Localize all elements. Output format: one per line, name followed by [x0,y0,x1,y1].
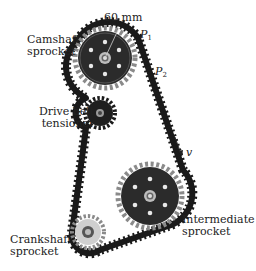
camshaft-sprocket-icon [75,28,135,88]
camshaft-label: Camshaft sprocket [27,34,80,58]
intermediate-label: Intermediate sprocket [182,214,255,238]
crankshaft-sprocket-icon [72,216,104,248]
timing-belt-diagram: Camshaft sprocket 60 mm P1 P2 Drive belt… [0,0,256,271]
velocity-label: v [186,147,192,159]
p2-subscript: 2 [162,71,166,79]
p1-subscript: 1 [147,34,151,42]
camshaft-label-line2: sprocket [27,46,80,58]
point-p1-label: P1 [140,29,152,44]
crankshaft-label: Crankshaft sprocket [10,234,72,258]
intermediate-sprocket-icon [118,164,182,228]
intermediate-label-line2: sprocket [182,226,255,238]
crankshaft-label-line2: sprocket [10,246,72,258]
tensioner-label-line2: tensioner [39,118,94,130]
radius-label: 60 mm [104,12,142,24]
tensioner-label: Drive belt tensioner [39,106,94,130]
point-p2-label: P2 [155,66,167,81]
